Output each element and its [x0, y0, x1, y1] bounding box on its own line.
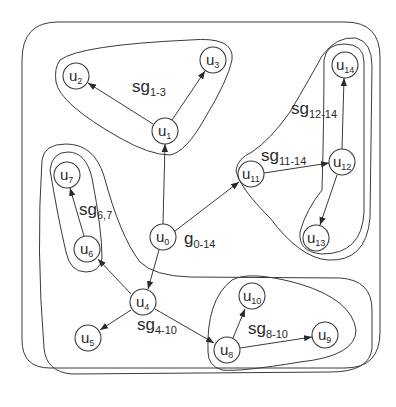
subgraph-label-sg8-10: sg8-10	[248, 319, 288, 340]
diagram-canvas: u0u1u2u3u4u5u6u7u8u9u10u11u12u13u14 sg1-…	[0, 0, 396, 407]
node-u13: u13	[303, 225, 329, 251]
node-u0: u0	[150, 224, 176, 250]
node-u9: u9	[312, 322, 338, 348]
node-u5: u5	[75, 325, 101, 351]
subgraph-label-sg1-3: sg1-3	[132, 77, 166, 98]
nodes: u0u1u2u3u4u5u6u7u8u9u10u11u12u13u14	[54, 47, 358, 363]
edge-u0-u4	[148, 250, 159, 289]
node-u10: u10	[239, 283, 265, 309]
node-u6: u6	[74, 236, 100, 262]
edge-u1-u3	[172, 71, 205, 120]
edge-u0-u1	[163, 144, 165, 224]
node-u3: u3	[200, 47, 226, 73]
node-u14: u14	[332, 52, 358, 78]
node-u8: u8	[214, 337, 240, 363]
edge-u4-u5	[100, 310, 131, 330]
subgraph-label-sg12-14: sg12-14	[291, 99, 337, 120]
subgraph-label-sg11-14: sg11-14	[261, 146, 306, 167]
node-u1: u1	[152, 118, 178, 144]
node-u7: u7	[54, 162, 80, 188]
subgraph-label-sg6-7: sg6,7	[79, 200, 112, 221]
subgraph-labels: sg1-3sg6,7sg4-10sg8-10sg11-14sg12-14g0-1…	[79, 77, 337, 340]
edge-u8-u10	[233, 309, 245, 338]
graph-label-g0-14: g0-14	[184, 229, 216, 250]
subgraph-boundary-sg12-14	[300, 44, 364, 254]
node-u2: u2	[63, 63, 89, 89]
edge-u0-u11	[175, 182, 239, 231]
edge-u4-u6	[98, 259, 131, 294]
edge-u12-u14	[342, 78, 344, 149]
node-u12: u12	[329, 149, 355, 175]
node-u4: u4	[130, 289, 156, 315]
